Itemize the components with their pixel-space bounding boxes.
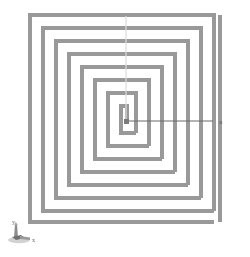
x-axis-label: x [219, 118, 223, 126]
rectangular-spiral[interactable] [30, 15, 220, 222]
origin-point[interactable] [124, 119, 129, 124]
triad-y-label: y [12, 219, 15, 225]
cad-model-viewport[interactable]: x y x [0, 0, 250, 257]
triad-x-label: x [32, 237, 35, 243]
drawing-canvas[interactable]: x y x [0, 0, 250, 257]
